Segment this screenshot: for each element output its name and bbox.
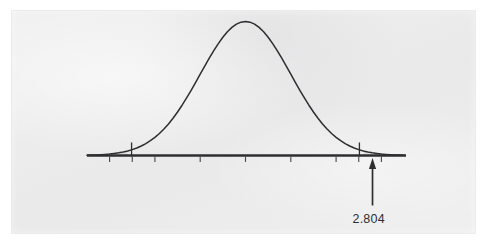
bell-curve-path <box>87 22 404 156</box>
figure-root: 2.804 <box>0 0 487 246</box>
x-axis-ticks <box>110 157 382 162</box>
test-statistic-arrow-icon <box>369 158 376 206</box>
normal-distribution-chart <box>0 0 487 246</box>
test-statistic-label: 2.804 <box>353 212 385 226</box>
arrow-head <box>369 158 376 169</box>
